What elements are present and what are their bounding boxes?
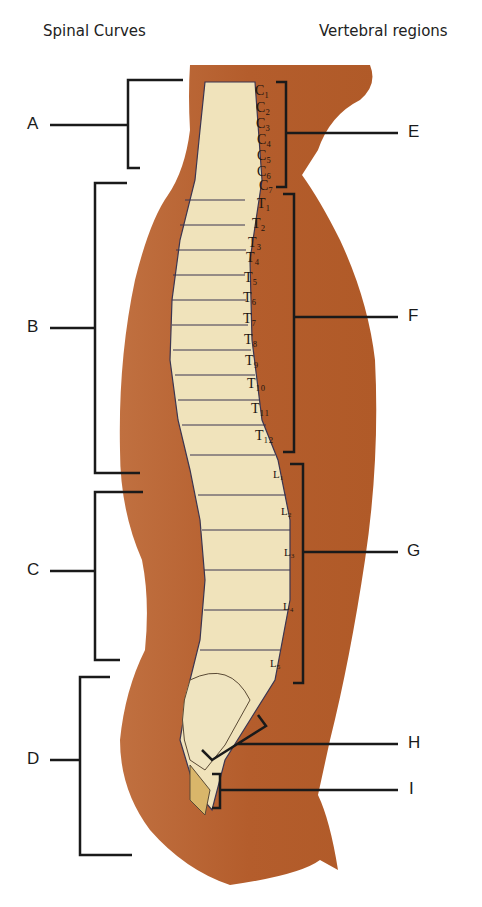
- svg-text:C₄: C₄: [257, 132, 271, 147]
- svg-text:L₂: L₂: [281, 505, 292, 517]
- svg-text:T₁₀: T₁₀: [247, 376, 265, 391]
- bracket-d: [50, 677, 132, 855]
- svg-text:C₂: C₂: [256, 100, 270, 115]
- svg-text:C₅: C₅: [257, 148, 271, 163]
- label-g: G: [407, 541, 420, 561]
- svg-text:T₄: T₄: [246, 250, 260, 265]
- svg-text:T₂: T₂: [252, 216, 266, 231]
- label-i: I: [409, 779, 414, 799]
- svg-text:T₉: T₉: [245, 353, 259, 368]
- c-labels: C₁: [255, 83, 269, 98]
- label-b: B: [27, 317, 38, 337]
- svg-text:L₅: L₅: [270, 657, 281, 669]
- svg-text:T₅: T₅: [244, 270, 258, 285]
- svg-text:T₇: T₇: [243, 311, 257, 326]
- svg-text:T₁₁: T₁₁: [251, 401, 269, 416]
- svg-text:C₆: C₆: [257, 164, 271, 179]
- svg-text:C₇: C₇: [259, 178, 273, 193]
- label-a: A: [27, 114, 38, 134]
- t-labels: T₁: [257, 196, 270, 211]
- svg-text:L₄: L₄: [283, 600, 294, 612]
- svg-text:T₃: T₃: [248, 235, 262, 250]
- label-h: H: [408, 733, 420, 753]
- svg-text:C₃: C₃: [256, 116, 270, 131]
- svg-text:T₈: T₈: [244, 332, 258, 347]
- l-labels: L₁: [273, 468, 284, 480]
- label-f: F: [408, 306, 418, 326]
- label-e: E: [408, 122, 419, 142]
- label-d: D: [27, 749, 39, 769]
- svg-text:L₃: L₃: [284, 546, 295, 558]
- svg-text:T₆: T₆: [243, 290, 257, 305]
- bracket-a: [50, 80, 183, 168]
- label-c: C: [27, 560, 39, 580]
- svg-text:T₁₂: T₁₂: [255, 428, 273, 443]
